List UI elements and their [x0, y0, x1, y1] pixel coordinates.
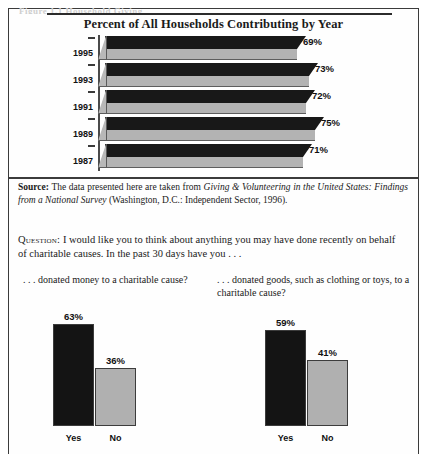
bar-3d [98, 63, 320, 88]
households-contributing-chart: Percent of All Households Contributing b… [9, 9, 418, 177]
bar-category-label: 1989 [53, 129, 93, 139]
mini-bar-value-label: 41% [307, 347, 348, 358]
source-label: Source: [18, 182, 49, 192]
subquestion-goods: . . . donated goods, such as clothing or… [217, 273, 410, 454]
subquestion-goods-chart: 59%Yes41%No [217, 305, 410, 445]
bar-row: 199172% [9, 89, 418, 116]
mini-bar-value-label: 63% [53, 311, 94, 322]
bar-top-face [105, 117, 324, 130]
bar-3d [98, 144, 314, 169]
subquestion-money-prompt: . . . donated money to a charitable caus… [23, 273, 216, 286]
mini-bar-yes [53, 324, 94, 426]
axis-tick [88, 91, 95, 93]
subquestion-goods-prompt: . . . donated goods, such as clothing or… [217, 273, 410, 299]
source-divider [9, 177, 418, 179]
source-text-before: The data presented here are taken from [49, 182, 204, 192]
question-note: Question: I would like you to think abou… [18, 233, 406, 260]
bar-value-label: 72% [312, 90, 331, 101]
bar-value-label: 71% [309, 144, 328, 155]
axis-tick [88, 118, 95, 120]
mini-bar-no [307, 360, 348, 426]
bar-left-cap [98, 117, 107, 141]
axis-tick [88, 64, 95, 66]
bar-left-cap [98, 90, 107, 114]
mini-bar-value-label: 59% [265, 317, 306, 328]
axis-tick [88, 145, 95, 147]
bar-front-face [105, 103, 315, 114]
bar-row: 199373% [9, 62, 418, 89]
mini-bar-category-label: Yes [265, 433, 306, 443]
bar-top-face [105, 63, 318, 76]
question-text: I would like you to think about anything… [18, 234, 395, 259]
bar-category-label: 1995 [53, 48, 93, 58]
question-label: Question: [18, 234, 60, 245]
subquestion-money-chart: 63%Yes36%No [23, 305, 216, 445]
bar-front-face [105, 49, 306, 60]
bar-front-face [105, 157, 312, 168]
bar-value-label: 75% [321, 117, 340, 128]
bar-row: 198771% [9, 143, 418, 170]
bar-row: 198975% [9, 116, 418, 143]
bar-front-face [105, 76, 318, 87]
bar-category-label: 1991 [53, 102, 93, 112]
subquestion-money: . . . donated money to a charitable caus… [23, 273, 216, 454]
bars-area: 199569%199373%199172%198975%198771% [9, 35, 418, 177]
bar-left-cap [98, 36, 107, 60]
bar-left-cap [98, 144, 107, 168]
mini-bar-category-label: Yes [53, 433, 94, 443]
axis-tick [88, 37, 95, 39]
source-note: Source: The data presented here are take… [18, 181, 408, 206]
bar-3d [98, 117, 326, 142]
subquestions: . . . donated money to a charitable caus… [18, 273, 409, 454]
bar-front-face [105, 130, 324, 141]
source-text-after: (Washington, D.C.: Independent Sector, 1… [107, 195, 288, 205]
bar-value-label: 73% [315, 63, 334, 74]
bar-value-label: 69% [303, 36, 322, 47]
mini-bar-no [95, 368, 136, 426]
bar-category-label: 1993 [53, 75, 93, 85]
bar-left-cap [98, 63, 107, 87]
mini-bar-category-label: No [95, 433, 136, 443]
bar-top-face [105, 144, 312, 157]
mini-bar-yes [265, 330, 306, 426]
chart-title: Percent of All Households Contributing b… [9, 17, 418, 32]
figure-frame: Figure 1.1 Household Giving Percent of A… [8, 8, 419, 454]
bar-3d [98, 90, 317, 115]
bar-3d [98, 36, 308, 61]
mini-bar-category-label: No [307, 433, 348, 443]
bar-category-label: 1987 [53, 156, 93, 166]
bar-row: 199569% [9, 35, 418, 62]
mini-bar-value-label: 36% [95, 355, 136, 366]
bar-top-face [105, 36, 306, 49]
title-rule [47, 13, 392, 15]
bar-top-face [105, 90, 315, 103]
